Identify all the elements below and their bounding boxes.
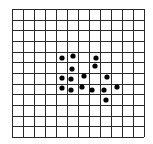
dot-marker: [81, 73, 86, 78]
dot-marker: [89, 87, 94, 92]
dot-marker: [92, 63, 97, 68]
dot-marker: [79, 84, 84, 89]
dot-marker: [70, 53, 75, 58]
dot-marker: [93, 55, 98, 60]
dot-marker: [68, 87, 73, 92]
background: [0, 0, 153, 144]
dot-marker: [101, 87, 106, 92]
dot-grid-diagram: [0, 0, 153, 144]
dot-marker: [68, 76, 73, 81]
dot-marker: [59, 85, 64, 90]
dot-marker: [104, 74, 109, 79]
dot-marker: [69, 66, 74, 71]
dot-marker: [59, 75, 64, 80]
dot-marker: [59, 55, 64, 60]
dot-marker: [114, 84, 119, 89]
dot-marker: [103, 97, 108, 102]
